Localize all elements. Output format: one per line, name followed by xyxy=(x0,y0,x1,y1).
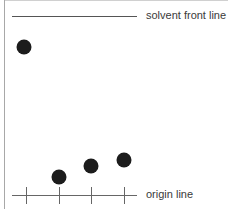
tlc-plate-canvas xyxy=(0,0,228,209)
origin-line-label: origin line xyxy=(146,189,193,200)
sample-spot xyxy=(117,153,132,168)
sample-spot xyxy=(84,159,99,174)
sample-spot xyxy=(17,40,32,55)
solvent-front-label: solvent front line xyxy=(146,10,226,21)
sample-spot xyxy=(52,170,67,185)
sample-spots xyxy=(17,40,132,185)
